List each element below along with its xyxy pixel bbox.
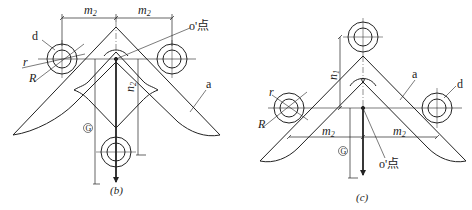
label-m2-right-b: m — [138, 3, 147, 17]
panel-c-labels: n1 a d r R m2 m2 G o'点 (c) — [257, 67, 463, 204]
label-m2-left-b: m — [84, 3, 93, 17]
svg-text:m2: m2 — [84, 3, 97, 18]
circled-g-b: G — [84, 124, 93, 134]
label-a-c: a — [412, 67, 418, 81]
caption-c: (c) — [356, 191, 369, 204]
panel-b-labels: m2 m2 d r R a o'点 n2 G (b) — [23, 3, 212, 197]
svg-text:m2: m2 — [138, 3, 151, 18]
label-m2-right-c: m — [393, 124, 402, 138]
svg-text:G: G — [86, 124, 92, 133]
technical-drawing: m2 m2 d r R a o'点 n2 G (b) — [0, 0, 472, 210]
leader-d-b — [42, 40, 55, 50]
label-o-point-b: o'点 — [189, 19, 209, 33]
svg-text:G: G — [341, 147, 347, 156]
label-d-b: d — [32, 29, 38, 43]
label-R-b: R — [28, 71, 37, 85]
leader-a-c — [400, 80, 415, 100]
dimension-m2-b — [60, 14, 174, 46]
dimension-n2-b — [136, 59, 146, 155]
label-m2-left-c: m — [322, 124, 331, 138]
panel-c — [260, 18, 466, 178]
label-o-point-c: o'点 — [379, 157, 399, 171]
label-a-b: a — [206, 77, 212, 91]
label-R-c: R — [257, 117, 266, 131]
ring-top-c — [343, 18, 383, 56]
svg-text:m2: m2 — [322, 124, 335, 139]
figure-canvas: m2 m2 d r R a o'点 n2 G (b) — [0, 0, 472, 210]
label-r-c: r — [269, 85, 274, 99]
leader-o-b — [116, 28, 190, 59]
leader-o-c — [363, 108, 385, 158]
label-d-c: d — [457, 77, 463, 91]
panel-b — [13, 14, 220, 184]
circled-g-c: G — [339, 147, 348, 157]
svg-text:m2: m2 — [393, 124, 406, 139]
caption-b: (b) — [110, 184, 123, 197]
leader-d-c — [444, 86, 456, 98]
svg-text:n1: n1 — [326, 70, 341, 80]
dimension-g-b — [93, 59, 100, 184]
label-r-b: r — [23, 55, 28, 69]
dimension-g-c — [348, 108, 358, 178]
svg-text:n2: n2 — [123, 82, 138, 92]
leader-a-b — [190, 90, 206, 112]
